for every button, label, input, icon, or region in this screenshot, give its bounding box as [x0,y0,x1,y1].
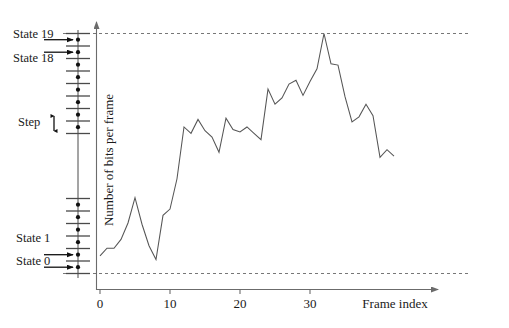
xtick-label-10: 10 [164,296,177,311]
step-annotation: Step [18,115,54,131]
chart-svg: State 19 State 18 State 1 State 0 Step 0… [0,0,509,328]
state-label-19: State 19 [13,27,54,41]
state-label-18: State 18 [13,51,54,65]
x-axis-label: Frame index [362,296,428,311]
xtick-label-20: 20 [234,296,247,311]
state-scale [66,30,90,278]
data-series-line [100,34,394,260]
step-label: Step [18,115,40,129]
chart-figure: State 19 State 18 State 1 State 0 Step 0… [0,0,509,328]
plot-axes [97,22,439,294]
y-axis-label: Number of bits per frame [101,94,116,226]
state-label-0: State 0 [16,254,50,268]
xtick-label-0: 0 [97,296,104,311]
state-label-1: State 1 [16,231,50,245]
xtick-label-30: 30 [304,296,317,311]
